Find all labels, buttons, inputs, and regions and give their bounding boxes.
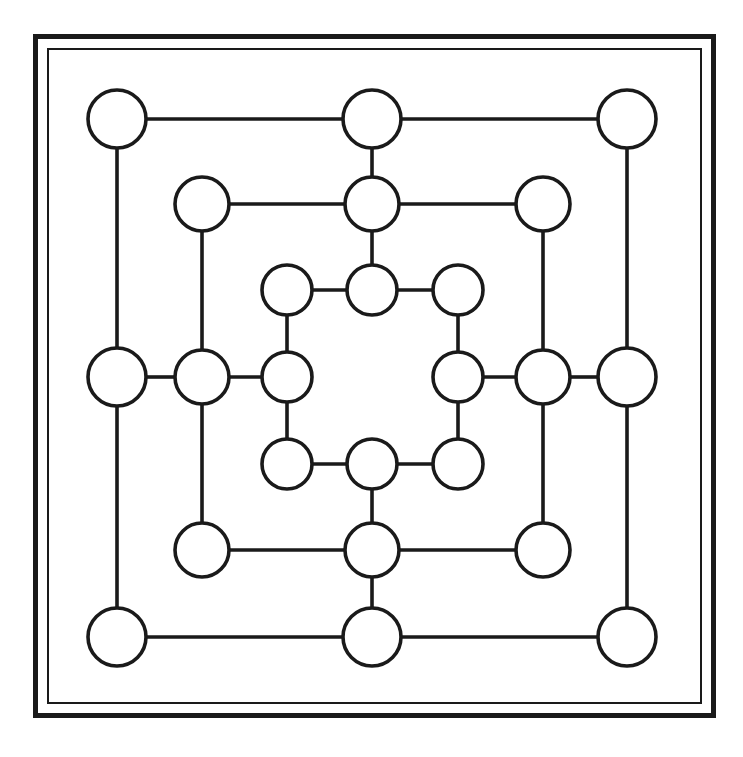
board-point-f4[interactable] xyxy=(516,350,570,404)
board-point-a1[interactable] xyxy=(88,608,146,666)
morris-board-graphic xyxy=(0,0,743,757)
board-point-c3[interactable] xyxy=(262,439,312,489)
board-point-f6[interactable] xyxy=(516,177,570,231)
board-point-b4[interactable] xyxy=(175,350,229,404)
board-point-a4[interactable] xyxy=(88,348,146,406)
board-point-e3[interactable] xyxy=(433,439,483,489)
board-point-d2[interactable] xyxy=(345,523,399,577)
board-point-d1[interactable] xyxy=(343,608,401,666)
board-point-c4[interactable] xyxy=(262,352,312,402)
board-point-e5[interactable] xyxy=(433,265,483,315)
board-point-d6[interactable] xyxy=(345,177,399,231)
board-point-f2[interactable] xyxy=(516,523,570,577)
board-point-d7[interactable] xyxy=(343,90,401,148)
board-point-e4[interactable] xyxy=(433,352,483,402)
board-point-g1[interactable] xyxy=(598,608,656,666)
board-point-c5[interactable] xyxy=(262,265,312,315)
board-point-b2[interactable] xyxy=(175,523,229,577)
board-canvas xyxy=(0,0,743,757)
board-point-g7[interactable] xyxy=(598,90,656,148)
board-point-g4[interactable] xyxy=(598,348,656,406)
board-point-d5[interactable] xyxy=(347,265,397,315)
board-point-a7[interactable] xyxy=(88,90,146,148)
board-point-d3[interactable] xyxy=(347,439,397,489)
board-point-b6[interactable] xyxy=(175,177,229,231)
